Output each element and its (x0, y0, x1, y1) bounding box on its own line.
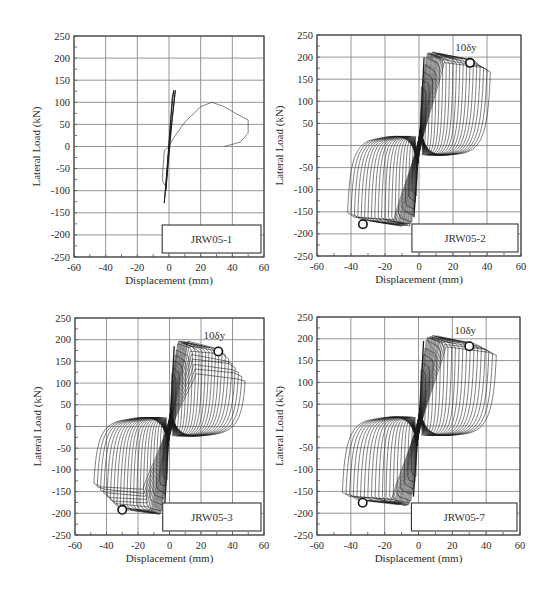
y-tick-label: 200 (297, 333, 313, 344)
y-tick-label: 250 (297, 312, 313, 323)
y-tick-label: 50 (303, 399, 314, 410)
x-tick-label: -40 (344, 540, 358, 551)
x-tick-label: -60 (310, 540, 324, 551)
y-tick-label: -50 (299, 442, 313, 453)
chart-panel-jrw05-4: 25020015010050-50-100-150-200-250-60-40-… (0, 0, 555, 595)
y-tick-label: -200 (294, 508, 313, 519)
y-tick-label: -100 (294, 464, 313, 475)
x-tick-label: 0 (416, 540, 421, 551)
y-axis-title: Lateral Load (kN) (273, 386, 286, 466)
x-axis-title: Displacement (mm) (375, 552, 463, 565)
y-tick-label: 100 (297, 377, 313, 388)
y-tick-label: -250 (294, 530, 313, 541)
specimen-label: JRW05-7 (443, 511, 485, 523)
chart-svg: 25020015010050-50-100-150-200-250-60-40-… (0, 0, 555, 595)
x-tick-label: 60 (515, 540, 526, 551)
x-tick-label: 20 (447, 540, 458, 551)
y-tick-label: 150 (297, 355, 313, 366)
marker-annotation: 10δy (454, 324, 476, 336)
y-tick-label: -150 (294, 486, 313, 497)
x-tick-label: 40 (481, 540, 492, 551)
peak-marker (465, 342, 473, 350)
x-tick-label: -20 (378, 540, 392, 551)
peak-marker (358, 499, 366, 507)
